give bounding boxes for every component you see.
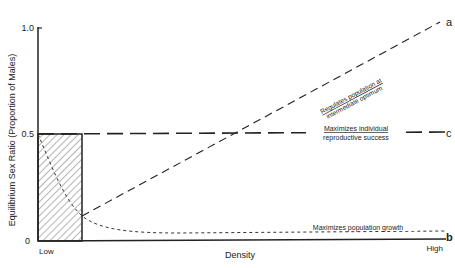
annotation-c-line2: reproductive success bbox=[323, 134, 389, 142]
y-axis-label: Equilibrium Sex Ratio (Proportion of Mal… bbox=[7, 54, 17, 227]
line-b bbox=[38, 134, 445, 233]
line-b-letter: b bbox=[446, 231, 453, 243]
annotation-c-line1: Maximizes individual bbox=[324, 125, 389, 132]
y-tick-05: 0.5 bbox=[21, 129, 34, 139]
x-tick-high: High bbox=[427, 244, 443, 253]
x-tick-low: Low bbox=[39, 247, 54, 256]
line-a-letter: a bbox=[446, 16, 453, 28]
x-axis-label: Density bbox=[225, 250, 256, 260]
hatched-region bbox=[38, 134, 82, 241]
y-tick-0: 0 bbox=[25, 236, 30, 246]
annotation-b: Maximizes population growth bbox=[313, 224, 403, 232]
line-a bbox=[82, 22, 440, 216]
line-c-letter: c bbox=[446, 127, 452, 139]
y-tick-1: 1.0 bbox=[21, 23, 34, 33]
x-axis bbox=[38, 239, 446, 241]
sex-ratio-diagram: 1.0 0.5 0 Low High Density Equilibrium S… bbox=[0, 0, 455, 268]
